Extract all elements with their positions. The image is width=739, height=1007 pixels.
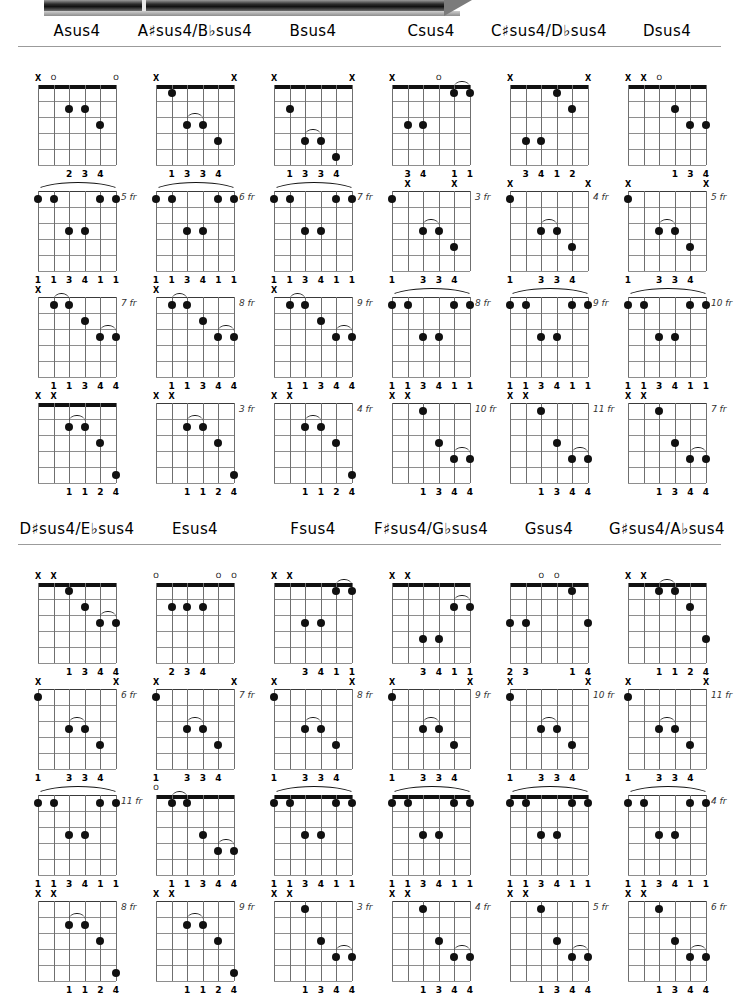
finger-dot [183, 227, 191, 235]
nut [38, 85, 116, 89]
finger-dot [168, 301, 176, 309]
fretboard-grid [510, 795, 588, 875]
muted-string-icon: X [403, 572, 412, 581]
fret-line [274, 647, 352, 648]
top-fret-line [628, 901, 706, 902]
fretboard-grid [628, 191, 706, 271]
string-line [454, 297, 455, 377]
tie-arc [69, 913, 85, 919]
finger-dot [702, 455, 710, 463]
fret-line [274, 631, 352, 632]
finger-number: 4 [80, 879, 89, 889]
finger-number: 1 [96, 275, 105, 285]
string-line [290, 85, 291, 165]
finger-number: 1 [270, 773, 279, 783]
string-line [454, 85, 455, 165]
fret-line [628, 329, 706, 330]
finger-dot [450, 953, 458, 961]
string-line [454, 403, 455, 483]
fretboard-grid [156, 901, 234, 981]
fretboard-grid [628, 689, 706, 769]
fret-line [392, 647, 470, 648]
finger-number: 1 [624, 275, 633, 285]
nut [156, 583, 234, 587]
string-line [156, 689, 157, 769]
finger-dot [435, 937, 443, 945]
finger-number: 4 [702, 487, 711, 497]
top-fret-line [274, 403, 352, 404]
fret-line [510, 615, 588, 616]
string-markers: XX [254, 678, 372, 689]
fret-line [510, 705, 588, 706]
tie-arc [659, 717, 675, 723]
section-1: Asus4A♯sus4/B♭sus4Bsus4Csus4C♯sus4/D♭sus… [0, 22, 739, 52]
string-line [408, 191, 409, 271]
finger-number: 1 [285, 275, 294, 285]
finger-number: 1 [316, 487, 325, 497]
finger-number: 3 [434, 487, 443, 497]
fret-position-label: 7 fr [711, 404, 726, 414]
finger-number: 1 [466, 381, 475, 391]
string-line [628, 689, 629, 769]
tab-slab-lower [44, 11, 460, 16]
finger-dot [96, 333, 104, 341]
finger-number: 1 [388, 879, 397, 889]
finger-dot [522, 799, 530, 807]
finger-dot [348, 953, 356, 961]
finger-number: 1 [537, 487, 546, 497]
fret-line [392, 313, 470, 314]
fretboard-grid [392, 901, 470, 981]
finger-number: 1 [552, 169, 561, 179]
finger-number: 3 [552, 985, 561, 995]
fret-line [392, 483, 470, 484]
fret-line [38, 133, 116, 134]
fret-line [628, 917, 706, 918]
fret-line [274, 149, 352, 150]
fret-line [38, 483, 116, 484]
muted-string-icon: X [624, 890, 633, 899]
finger-dot [301, 725, 309, 733]
finger-number: 1 [112, 879, 121, 889]
muted-string-icon: X [403, 890, 412, 899]
fret-line [38, 705, 116, 706]
string-line [628, 795, 629, 875]
string-line [85, 403, 86, 483]
finger-dot [332, 333, 340, 341]
finger-number: 1 [450, 381, 459, 391]
top-fret-line [156, 403, 234, 404]
top-fret-line [274, 689, 352, 690]
finger-number: 3 [65, 879, 74, 889]
fret-position-label: 8 fr [239, 298, 254, 308]
fretboard-grid [38, 795, 116, 875]
tie-arc [187, 415, 203, 421]
finger-number: 1 [348, 879, 357, 889]
fingering-row: 1344 [490, 985, 608, 997]
string-line [706, 583, 707, 663]
string-line [510, 85, 511, 165]
fret-line [38, 271, 116, 272]
tie-arc [172, 791, 188, 797]
chord-diagram-Dsharp-sus4-pos4-8fr: XX8 fr1124 [18, 890, 136, 998]
fingering-row: 1124 [18, 487, 136, 499]
fret-position-label: 7 fr [239, 690, 254, 700]
finger-number: 3 [198, 381, 207, 391]
finger-number: 1 [624, 381, 633, 391]
chord-diagram-Esus4-open: OOO234 [136, 572, 254, 680]
finger-dot [553, 937, 561, 945]
finger-number: 3 [670, 985, 679, 995]
finger-dot [112, 619, 120, 627]
tie-arc [100, 325, 116, 331]
finger-number: 1 [506, 879, 515, 889]
fret-line [392, 827, 470, 828]
finger-number: 3 [198, 169, 207, 179]
fret-line [274, 451, 352, 452]
string-line [392, 403, 393, 483]
finger-number: 4 [702, 169, 711, 179]
fretboard-grid [156, 85, 234, 165]
finger-number: 1 [655, 985, 664, 995]
string-line [408, 403, 409, 483]
finger-dot [584, 953, 592, 961]
top-fret-line [38, 297, 116, 298]
string-line [526, 403, 527, 483]
muted-string-icon: X [388, 678, 397, 687]
